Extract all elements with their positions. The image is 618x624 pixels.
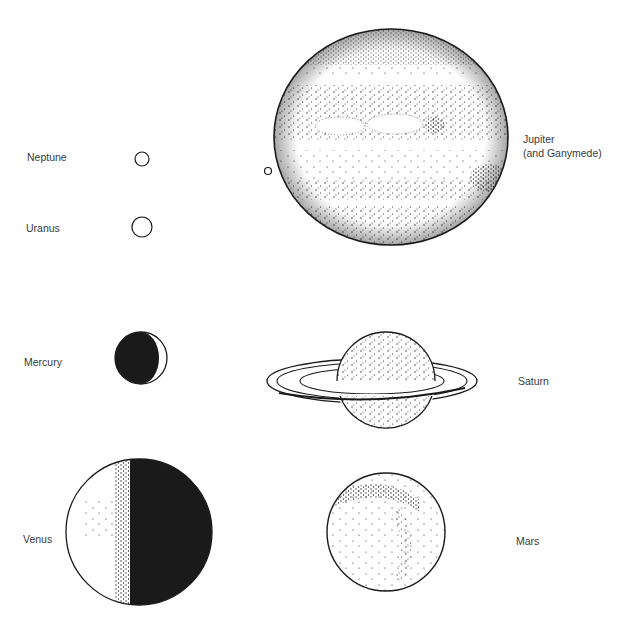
- label-jupiter-moon: (and Ganymede): [523, 146, 602, 160]
- label-venus: Venus: [23, 532, 52, 546]
- neptune-disc: [135, 152, 149, 166]
- ganymede-moon: [265, 168, 272, 175]
- planet-illustrations: [0, 0, 618, 624]
- planet-diagram: Neptune Uranus Jupiter (and Ganymede) Me…: [0, 0, 618, 624]
- label-neptune: Neptune: [27, 150, 67, 164]
- uranus-disc: [132, 217, 152, 237]
- jupiter-disc: [270, 25, 515, 250]
- label-jupiter: Jupiter: [523, 132, 555, 146]
- mars-disc: [325, 470, 476, 595]
- label-mars: Mars: [516, 534, 539, 548]
- venus-disc: [66, 455, 220, 610]
- mercury-disc: [115, 332, 167, 384]
- label-mercury: Mercury: [24, 355, 62, 369]
- label-saturn: Saturn: [518, 374, 549, 388]
- saturn-disc: [267, 330, 477, 433]
- label-uranus: Uranus: [26, 221, 60, 235]
